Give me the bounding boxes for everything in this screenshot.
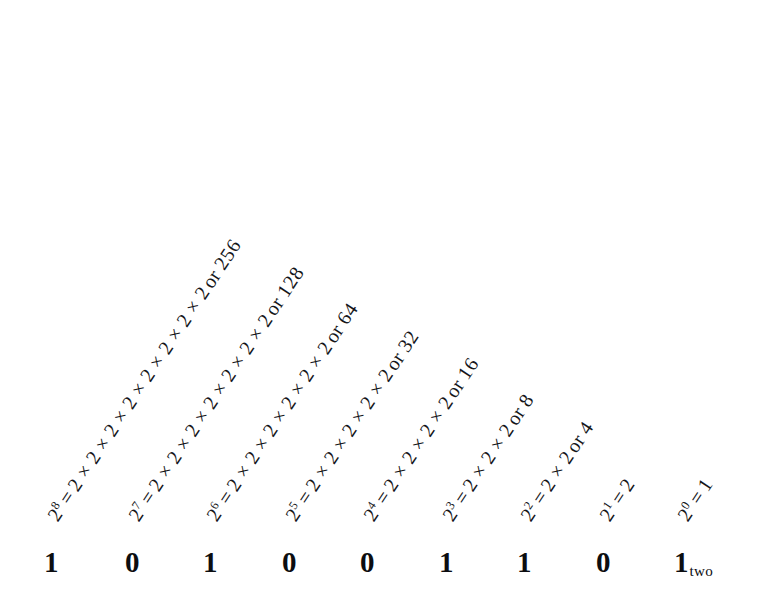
binary-digit: 0 <box>125 548 140 577</box>
binary-digit-value: 0 <box>282 546 297 578</box>
repeated-multiplication-expression: 2 × 2 × 2 × 2 × 2 × 2 × 2 × 2 <box>63 282 214 495</box>
power-row-2-exp-2: 22=2 × 2or4 <box>517 418 597 525</box>
power-row-2-exp-0: 20=1 <box>674 475 716 525</box>
repeated-multiplication-expression: 2 × 2 <box>536 447 578 495</box>
decimal-value: 16 <box>453 353 483 383</box>
binary-digit: 1 <box>439 548 454 577</box>
binary-digit: 0 <box>360 548 375 577</box>
binary-digit-value: 1 <box>203 546 218 578</box>
decimal-value: 32 <box>393 326 423 356</box>
binary-digit-value: 1 <box>439 546 454 578</box>
binary-digit-value: 1 <box>674 546 689 578</box>
power-row-2-exp-1: 21=2 <box>596 475 638 525</box>
binary-digit-strip: 101001101two <box>0 548 760 592</box>
decimal-value: 128 <box>272 262 308 301</box>
figure-canvas: 28=2 × 2 × 2 × 2 × 2 × 2 × 2 × 2or25627=… <box>0 0 760 614</box>
decimal-value: 64 <box>332 298 362 328</box>
binary-digit-value: 0 <box>596 546 611 578</box>
base-subscript: two <box>690 563 714 579</box>
binary-digit-value: 0 <box>125 546 140 578</box>
binary-digit: 1 <box>517 548 532 577</box>
binary-digit-value: 1 <box>44 546 59 578</box>
repeated-multiplication-expression: 2 × 2 × 2 <box>458 419 518 495</box>
binary-digit: 1two <box>674 548 712 577</box>
repeated-multiplication-expression: 2 × 2 × 2 × 2 <box>379 392 458 495</box>
binary-digit: 1 <box>203 548 218 577</box>
binary-digit: 0 <box>282 548 297 577</box>
binary-digit-value: 0 <box>360 546 375 578</box>
decimal-value: 256 <box>209 235 245 274</box>
power-of-two-rows: 28=2 × 2 × 2 × 2 × 2 × 2 × 2 × 2or25627=… <box>0 0 760 540</box>
binary-digit-value: 1 <box>517 546 532 578</box>
power-row-2-exp-5: 25=2 × 2 × 2 × 2 × 2or32 <box>282 326 422 524</box>
binary-digit: 1 <box>44 548 59 577</box>
binary-digit: 0 <box>596 548 611 577</box>
power-row-2-exp-6: 26=2 × 2 × 2 × 2 × 2 × 2or64 <box>203 299 362 524</box>
